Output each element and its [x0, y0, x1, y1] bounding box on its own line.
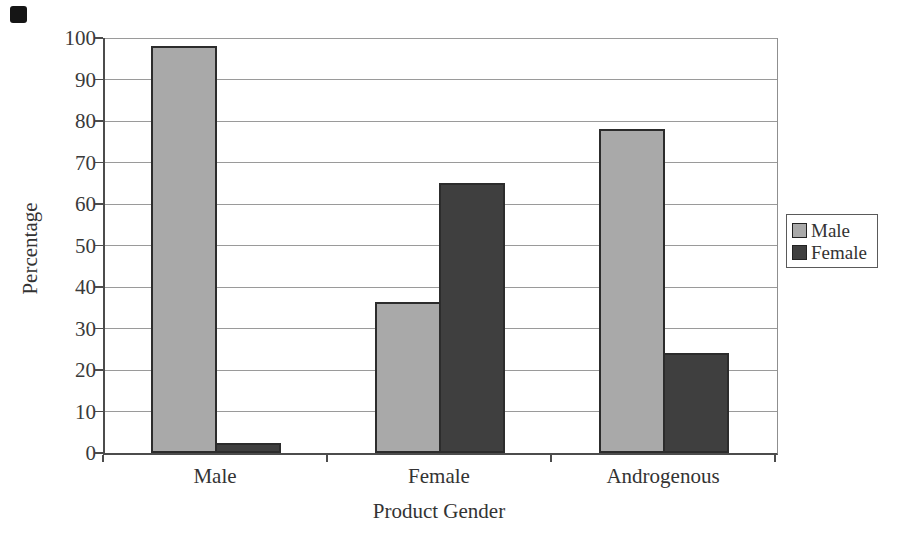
y-tick-mark-10	[95, 411, 103, 413]
legend-swatch-male	[792, 223, 807, 238]
y-tick-label-80: 80	[38, 111, 96, 132]
x-tick-mark-1	[326, 455, 328, 462]
y-tick-label-60: 60	[38, 194, 96, 215]
y-tick-label-10: 10	[38, 401, 96, 422]
bar-male-androgenous	[599, 129, 665, 453]
y-tick-mark-100	[95, 37, 103, 39]
category-label-androgenous: Androgenous	[551, 464, 775, 489]
y-tick-mark-90	[95, 79, 103, 81]
print-artifact-square	[10, 6, 27, 23]
legend-row-female: Female	[792, 241, 873, 263]
y-tick-label-40: 40	[38, 277, 96, 298]
y-tick-mark-30	[95, 328, 103, 330]
y-tick-mark-40	[95, 286, 103, 288]
legend: MaleFemale	[786, 214, 878, 268]
y-tick-mark-0	[95, 452, 103, 454]
legend-label-male: Male	[811, 221, 850, 240]
x-axis-title: Product Gender	[103, 499, 775, 524]
y-tick-mark-20	[95, 369, 103, 371]
x-tick-mark-2	[550, 455, 552, 462]
legend-label-female: Female	[811, 243, 867, 262]
bar-male-male	[151, 46, 217, 453]
plot-area	[103, 38, 778, 455]
y-tick-label-0: 0	[38, 443, 96, 464]
x-tick-mark-0	[102, 455, 104, 462]
gridline-100	[105, 38, 777, 39]
y-tick-label-50: 50	[38, 235, 96, 256]
bar-female-female	[439, 183, 505, 453]
y-tick-label-30: 30	[38, 318, 96, 339]
y-tick-label-70: 70	[38, 152, 96, 173]
category-label-female: Female	[327, 464, 551, 489]
y-tick-mark-50	[95, 245, 103, 247]
chart-page: Percentage 0102030405060708090100 MaleFe…	[0, 0, 913, 540]
y-tick-mark-80	[95, 120, 103, 122]
bar-female-androgenous	[663, 353, 729, 453]
category-label-male: Male	[103, 464, 327, 489]
y-tick-label-20: 20	[38, 360, 96, 381]
y-tick-label-90: 90	[38, 69, 96, 90]
bar-male-female	[375, 302, 441, 453]
y-tick-mark-70	[95, 162, 103, 164]
y-tick-label-100: 100	[38, 28, 96, 49]
x-tick-mark-3	[774, 455, 776, 462]
bar-female-male	[215, 443, 281, 453]
legend-row-male: Male	[792, 219, 873, 241]
legend-swatch-female	[792, 245, 807, 260]
y-tick-mark-60	[95, 203, 103, 205]
